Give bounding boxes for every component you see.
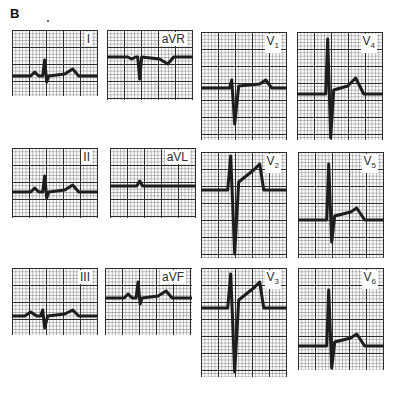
ecg-lead-v3: V3 [201, 268, 287, 377]
ecg-lead-v2: V2 [201, 152, 287, 258]
lead-label: V6 [362, 270, 378, 289]
ecg-lead-avl: aVL [110, 148, 196, 218]
lead-label: II [81, 150, 92, 164]
lead-label: V5 [362, 154, 378, 173]
ecg-lead-ii: II [12, 148, 98, 218]
lead-label: V1 [265, 34, 281, 53]
figure-label: B [10, 6, 19, 21]
lead-label: V2 [265, 154, 281, 173]
ecg-lead-i: I [12, 30, 98, 96]
lead-label: V3 [265, 270, 281, 289]
ecg-lead-v6: V6 [298, 268, 384, 370]
lead-label: aVF [160, 270, 186, 284]
ecg-lead-v4: V4 [297, 32, 383, 140]
lead-label: V4 [361, 34, 377, 53]
ecg-lead-v5: V5 [298, 152, 384, 258]
ecg-lead-iii: III [12, 268, 98, 335]
ecg-lead-v1: V1 [201, 32, 287, 140]
ecg-lead-avf: aVF [105, 268, 192, 335]
lead-label: aVL [165, 150, 190, 164]
ecg-lead-avr: aVR [107, 30, 193, 100]
lead-label: III [78, 270, 92, 284]
lead-label: aVR [160, 32, 187, 46]
lead-label: I [85, 32, 92, 46]
decorative-dot [47, 20, 49, 22]
